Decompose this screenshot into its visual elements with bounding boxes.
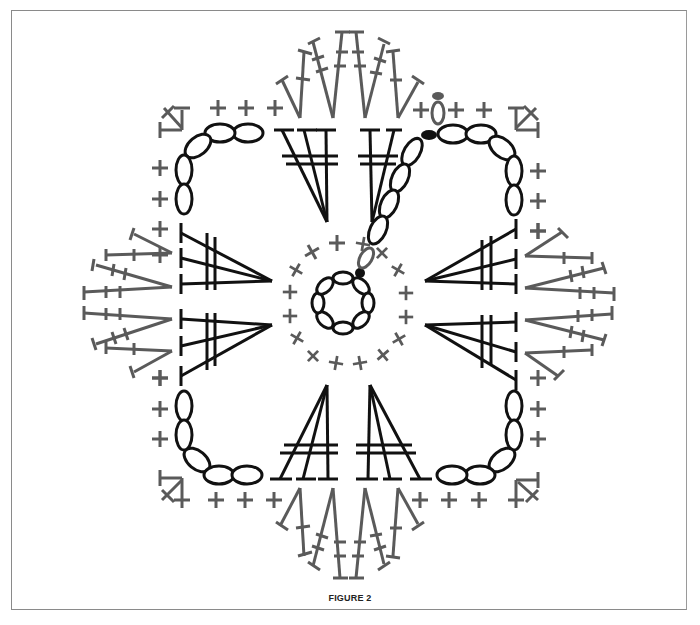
crochet-diagram [0, 0, 700, 625]
figure-caption: FIGURE 2 [0, 593, 700, 603]
round-2-single-crochet [283, 235, 413, 371]
corner-stitches [160, 106, 538, 508]
connecting-chain [355, 245, 376, 270]
center-chain-ring [312, 272, 374, 334]
slip-stitch-join [421, 130, 437, 140]
round-3-treble-fans [181, 130, 516, 479]
right-petal [525, 223, 614, 380]
left-petal [84, 228, 172, 386]
gray-chain-start [432, 102, 444, 124]
corner-chain-loops [176, 124, 522, 484]
slip-stitch-dot [355, 268, 365, 278]
round-4-single-crochet [152, 100, 546, 508]
bottom-petal [276, 488, 424, 578]
top-petal [276, 32, 424, 118]
slip-stitch-join-gray [432, 92, 444, 100]
